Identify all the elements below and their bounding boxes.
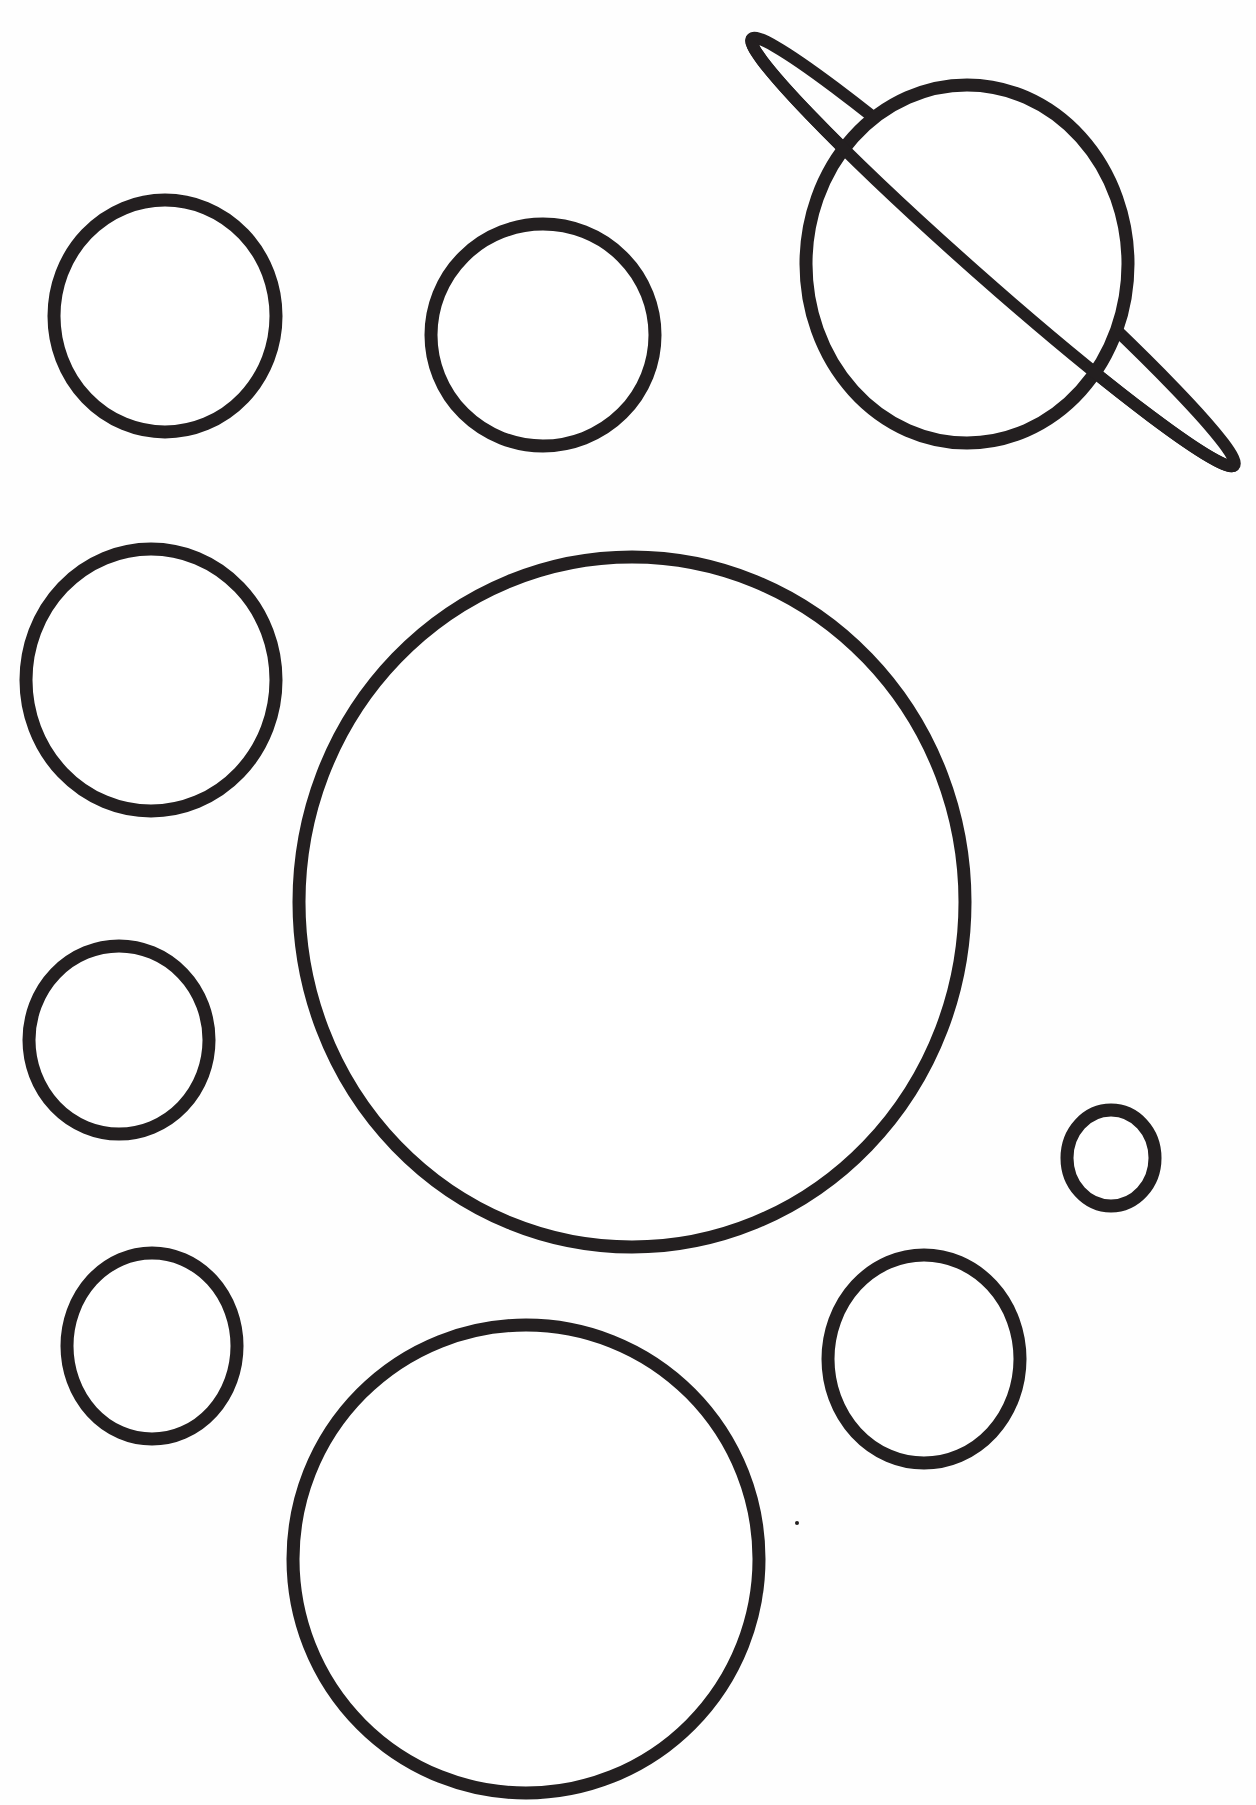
planet-large-center	[299, 557, 965, 1247]
planet-left-middle	[26, 549, 276, 811]
ink-specks	[795, 1521, 799, 1525]
planet-tiny-right	[1067, 1110, 1155, 1206]
planets-illustration	[0, 0, 1256, 1805]
planet-top-middle	[431, 224, 655, 446]
ringed-planet	[735, 19, 1252, 485]
planet-bottom-left	[67, 1253, 237, 1439]
planet-bottom-right	[828, 1255, 1020, 1463]
coloring-page-canvas	[0, 0, 1256, 1805]
ink-speck	[795, 1521, 799, 1525]
planet-bottom-center	[293, 1325, 759, 1793]
planet-top-left	[54, 200, 276, 432]
planet-left-lower	[29, 946, 209, 1134]
